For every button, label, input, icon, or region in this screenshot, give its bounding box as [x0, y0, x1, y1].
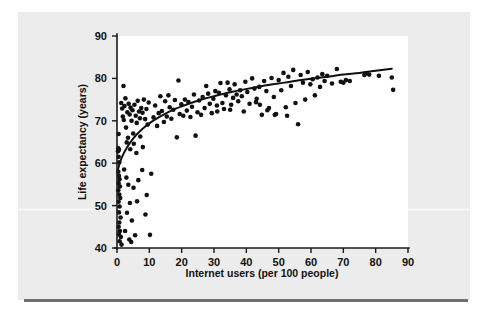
- data-point: [153, 103, 158, 108]
- data-point: [125, 211, 130, 216]
- data-point: [140, 168, 145, 173]
- data-point: [119, 242, 124, 247]
- data-point: [135, 99, 140, 104]
- data-point: [308, 82, 313, 87]
- data-point: [139, 106, 144, 111]
- x-axis-ticks: 0102030405060708090: [114, 248, 414, 268]
- data-point: [162, 120, 167, 125]
- data-point: [181, 113, 186, 118]
- data-point: [377, 74, 382, 79]
- scatter-chart-figure: 405060708090 0102030405060708090 Interne…: [0, 0, 488, 318]
- figure-page: 405060708090 0102030405060708090 Interne…: [0, 0, 488, 318]
- data-point: [303, 97, 308, 102]
- data-point: [142, 97, 147, 102]
- data-point: [269, 76, 274, 81]
- data-point: [128, 147, 133, 152]
- data-point: [229, 102, 234, 107]
- data-point: [134, 121, 139, 126]
- data-point: [243, 79, 248, 84]
- data-point: [192, 92, 197, 97]
- data-point: [122, 167, 127, 172]
- data-point: [254, 100, 259, 105]
- data-point: [231, 96, 236, 101]
- data-point: [123, 96, 128, 101]
- data-point: [160, 109, 165, 114]
- data-point: [225, 80, 230, 85]
- data-point: [218, 81, 223, 86]
- data-point: [121, 118, 126, 123]
- data-point: [126, 183, 131, 188]
- data-point: [391, 88, 396, 93]
- data-point: [228, 107, 233, 112]
- data-point: [185, 108, 190, 113]
- data-point: [136, 178, 141, 183]
- data-point: [155, 124, 160, 129]
- data-point: [129, 119, 134, 124]
- data-point: [220, 101, 225, 106]
- data-point: [283, 105, 288, 110]
- data-point: [335, 67, 340, 72]
- data-point: [130, 218, 135, 223]
- data-point: [117, 204, 122, 209]
- data-point: [215, 109, 220, 114]
- data-point: [276, 78, 281, 83]
- data-point: [348, 79, 353, 84]
- data-point: [135, 199, 140, 204]
- data-point: [313, 93, 318, 98]
- data-point: [234, 92, 239, 97]
- data-point: [204, 84, 209, 89]
- y-tick-label: 50: [95, 200, 107, 212]
- data-point: [132, 102, 137, 107]
- data-point: [138, 134, 143, 139]
- data-point: [236, 99, 241, 104]
- x-axis: 0102030405060708090: [114, 248, 414, 268]
- x-axis-title: Internet users (per 100 people): [186, 267, 339, 279]
- data-point: [265, 108, 270, 113]
- data-point: [128, 201, 133, 206]
- data-point: [176, 78, 181, 83]
- data-point: [131, 185, 136, 190]
- data-point: [344, 78, 349, 83]
- data-point: [206, 91, 211, 96]
- data-point: [209, 111, 214, 116]
- data-point: [330, 81, 335, 86]
- plot-area-background: [117, 36, 408, 248]
- data-point: [264, 89, 269, 94]
- data-point: [144, 193, 149, 198]
- data-point: [199, 113, 204, 118]
- data-point: [293, 101, 298, 106]
- data-point: [173, 98, 178, 103]
- data-point: [247, 102, 252, 107]
- data-point: [190, 105, 195, 110]
- data-point: [121, 84, 126, 89]
- data-point: [133, 113, 138, 118]
- data-point: [241, 109, 246, 114]
- data-point: [175, 135, 180, 140]
- data-point: [146, 100, 151, 105]
- x-tick-label: 0: [114, 256, 120, 268]
- data-point: [240, 94, 245, 99]
- data-point: [291, 68, 296, 73]
- data-point: [169, 116, 174, 121]
- data-point: [390, 75, 395, 80]
- data-point: [133, 233, 138, 238]
- data-point: [245, 90, 250, 95]
- data-point: [296, 122, 301, 127]
- data-point: [124, 125, 129, 130]
- data-point: [208, 102, 213, 107]
- x-tick-label: 90: [402, 256, 414, 268]
- data-point: [305, 70, 310, 75]
- data-point: [262, 79, 267, 84]
- data-point: [127, 112, 132, 117]
- data-point: [134, 151, 139, 156]
- data-point: [298, 73, 303, 78]
- data-point: [129, 240, 134, 245]
- data-point: [122, 104, 127, 109]
- y-tick-label: 90: [95, 30, 107, 42]
- data-point: [166, 93, 171, 98]
- data-point: [158, 94, 163, 99]
- y-tick-label: 60: [95, 157, 107, 169]
- data-point: [140, 110, 145, 115]
- data-point: [188, 115, 193, 120]
- data-point: [272, 113, 277, 118]
